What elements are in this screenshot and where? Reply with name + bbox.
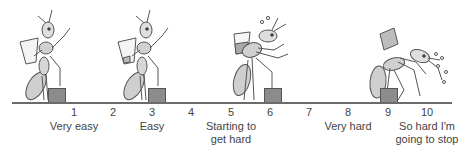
tick-number: 4 bbox=[176, 106, 206, 118]
tick-number: 9 bbox=[373, 106, 403, 118]
tick-number: 7 bbox=[294, 106, 324, 118]
label-starting-to-get-hard: Starting to get hard bbox=[186, 120, 276, 146]
tick-number: 3 bbox=[137, 106, 167, 118]
ant-very-hard-figure bbox=[364, 0, 464, 104]
tick-number: 10 bbox=[412, 106, 442, 118]
tick-number: 5 bbox=[216, 106, 246, 118]
tick-number: 1 bbox=[59, 106, 89, 118]
label-very-hard: Very hard bbox=[303, 120, 393, 133]
label-so-hard-going-to-stop: So hard I'm going to stop bbox=[382, 120, 464, 146]
scale-baseline bbox=[12, 102, 452, 104]
tick-number: 8 bbox=[333, 106, 363, 118]
label-very-easy: Very easy bbox=[29, 120, 119, 133]
ant-very-easy-figure bbox=[8, 0, 78, 104]
tick-number: 6 bbox=[255, 106, 285, 118]
label-easy: Easy bbox=[107, 120, 197, 133]
exertion-scale-diagram: 1 2 3 4 5 6 7 8 9 10 Very easy Easy Star… bbox=[0, 0, 464, 150]
tick-number: 2 bbox=[98, 106, 128, 118]
